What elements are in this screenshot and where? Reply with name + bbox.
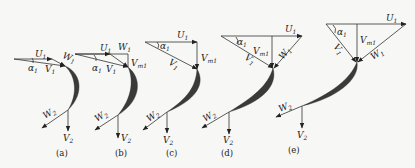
vm1-label: Vm1 [253,46,269,57]
vm1-label: Vm1 [131,58,147,69]
w1-label: W1 [277,45,294,62]
caption-c: (c) [166,148,177,158]
blade-profile [65,66,79,110]
v2-label: V2 [163,135,174,146]
vm1-label: Vm1 [201,53,217,64]
u1-label: U1 [177,30,188,41]
caption-d: (d) [221,148,233,158]
panel-a: U1 W1 α1 V1 W2 V2 (a) [14,49,79,158]
w1-label: W1 [118,42,131,53]
u1-label: U1 [285,24,296,35]
u1-label: U1 [100,43,111,54]
v2-label: V2 [121,133,132,144]
v1-vector [75,54,128,67]
w2-label: W2 [277,100,293,115]
v1-vector [14,59,65,66]
caption-e: (e) [288,145,300,155]
vm1-label: Vm1 [360,35,376,46]
alpha1-arc [157,42,159,48]
panel-b: U1 W1 Vm1 α1 V1 W2 V2 (b) [75,42,147,158]
alpha1-label: α1 [92,63,102,74]
v2-label: V2 [297,130,308,141]
alpha1-label: α1 [28,63,38,74]
panel-c: U1 Vm1 α1 V1 W2 V2 (c) [143,30,217,158]
caption-a: (a) [56,148,68,158]
alpha1-label: α1 [337,27,347,38]
v1-label: V1 [45,64,55,75]
blade-profile [302,62,357,106]
alpha1-label: α1 [237,37,247,48]
alpha1-label: α1 [160,41,170,52]
v2-label: V2 [223,135,234,146]
w1-label: W1 [369,46,386,62]
alpha1-arc [333,25,336,33]
v2-label: V2 [63,133,74,144]
v1-label: V1 [106,64,116,75]
blade-profile [167,69,200,112]
u1-label: U1 [386,13,397,24]
velocity-triangle-diagram: U1 W1 α1 V1 W2 V2 (a) U1 W1 Vm1 α1 V1 W2… [0,0,415,168]
blade-profile [118,67,137,115]
caption-b: (b) [115,148,127,158]
w2-label: W2 [201,108,218,124]
w1-label: W1 [61,50,77,65]
u1-label: U1 [35,49,46,60]
panel-d: U1 W1 Vm1 α1 V1 W2 V2 (d) [201,24,302,158]
v1-label: V1 [331,42,346,57]
alpha1-arc [94,55,96,61]
blade-profile [229,68,274,112]
